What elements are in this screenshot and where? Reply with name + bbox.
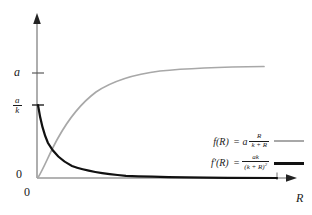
y-axis-label-zero: 0 (16, 168, 22, 180)
y-axis-label-a: a (14, 66, 20, 78)
legend-f-lhs: f(R) (213, 136, 229, 147)
legend-row-f-prime: f'(R) = ak (k + R)2 (168, 152, 304, 174)
x-axis-label-R: R (296, 192, 303, 204)
legend-row-f: f(R) = a R k + R (168, 130, 304, 152)
legend-f-denominator: k + R (249, 141, 269, 149)
plot-area (0, 0, 312, 215)
x-axis-arrowhead (286, 174, 297, 182)
legend-swatch-f-prime (274, 162, 304, 165)
figure-container: a a k 0 0 R f(R) = a R k + R (0, 0, 312, 215)
y-axis-label-a-over-k: a k (13, 96, 22, 116)
legend-f-numerator: R (249, 133, 269, 140)
y-axis-arrowhead (33, 13, 41, 24)
x-axis-label-origin-zero: 0 (24, 186, 30, 198)
legend-f-coefficient: a (242, 136, 247, 147)
legend-f-prime-equals: = (234, 157, 240, 168)
legend-swatch-f (274, 140, 304, 142)
legend: f(R) = a R k + R f'(R) = ak (k + R)2 (168, 130, 304, 174)
legend-f-prime-numerator: ak (242, 154, 269, 161)
fraction-a-over-k: a k (13, 96, 22, 116)
legend-f-prime-lhs: f'(R) (211, 157, 229, 168)
legend-f-prime-denominator: (k + R)2 (242, 161, 269, 172)
legend-formula-f: f(R) = a R k + R (213, 133, 269, 149)
fraction-denominator: k (13, 105, 22, 115)
legend-f-prime-denominator-exponent: 2 (265, 162, 267, 167)
fraction-numerator: a (13, 96, 22, 105)
legend-formula-f-prime: f'(R) = ak (k + R)2 (211, 154, 269, 172)
legend-f-prime-denominator-base: (k + R) (244, 164, 264, 172)
legend-f-fraction: R k + R (249, 133, 269, 149)
legend-f-prime-fraction: ak (k + R)2 (242, 154, 269, 172)
legend-f-equals: = (234, 136, 240, 147)
